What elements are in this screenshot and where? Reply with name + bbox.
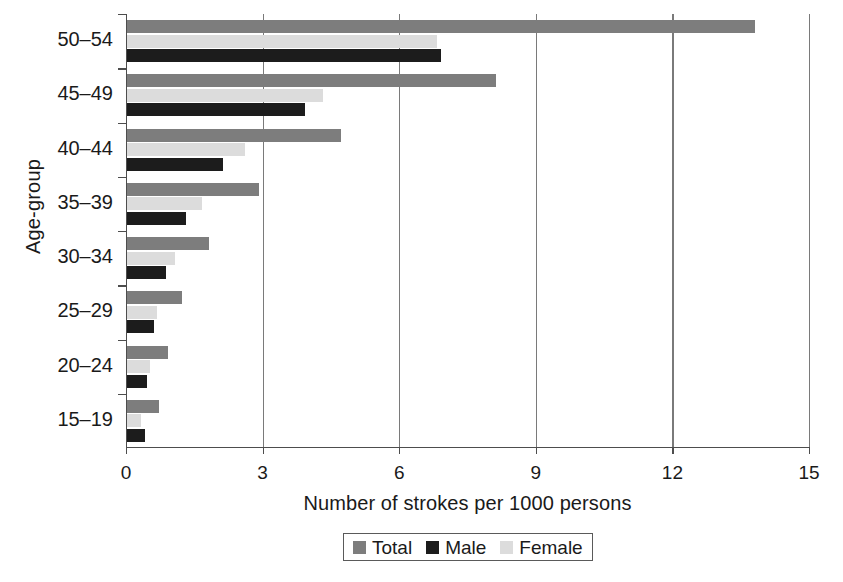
bar-group-25–29: 25–29 [127,285,809,339]
x-tick-label-6: 6 [369,462,429,484]
bar-male-20–24 [127,375,147,388]
y-tick-mark-25–29 [118,340,127,341]
x-tick-label-9: 9 [506,462,566,484]
x-tick-mark-15 [809,447,810,454]
plot-area: 03691215 15–1920–2425–2930–3435–3940–444… [126,14,809,448]
bar-total-45–49 [127,74,496,87]
bar-total-35–39 [127,183,259,196]
y-tick-label-35–39: 35–39 [3,191,113,214]
bar-female-20–24 [127,360,150,373]
bar-group-45–49: 45–49 [127,68,809,122]
bar-total-25–29 [127,291,182,304]
bar-female-30–34 [127,252,175,265]
y-tick-mark-20–24 [118,394,127,395]
chart-legend: TotalMaleFemale [343,533,593,561]
bar-female-50–54 [127,35,437,48]
x-tick-label-12: 12 [642,462,702,484]
x-axis-title: Number of strokes per 1000 persons [126,492,809,515]
y-tick-mark-top [118,14,127,15]
bar-total-40–44 [127,129,341,142]
x-tick-mark-12 [672,447,673,454]
bar-female-35–39 [127,197,202,210]
bar-male-40–44 [127,158,223,171]
bar-female-45–49 [127,89,323,102]
y-tick-mark-35–39 [118,231,127,232]
bar-male-15–19 [127,429,145,442]
legend-label-total: Total [372,538,412,557]
bar-total-15–19 [127,400,159,413]
bar-male-35–39 [127,212,186,225]
legend-label-male: Male [445,538,486,557]
y-tick-mark-30–34 [118,285,127,286]
x-tick-mark-9 [536,447,537,454]
y-tick-label-30–34: 30–34 [3,245,113,268]
legend-swatch-female-icon [500,541,513,554]
y-tick-mark-50–54 [118,68,127,69]
y-tick-label-45–49: 45–49 [3,82,113,105]
bar-male-30–34 [127,266,166,279]
y-tick-label-25–29: 25–29 [3,299,113,322]
legend-label-female: Female [519,538,582,557]
bar-group-35–39: 35–39 [127,177,809,231]
x-tick-mark-0 [126,447,127,454]
y-tick-label-50–54: 50–54 [3,28,113,51]
bar-group-15–19: 15–19 [127,394,809,448]
bar-group-20–24: 20–24 [127,340,809,394]
bar-male-25–29 [127,320,154,333]
bar-total-30–34 [127,237,209,250]
x-tick-mark-3 [263,447,264,454]
x-tick-label-3: 3 [233,462,293,484]
legend-item-total[interactable]: Total [353,538,412,557]
y-tick-mark-45–49 [118,123,127,124]
y-tick-label-15–19: 15–19 [3,408,113,431]
y-tick-label-20–24: 20–24 [3,354,113,377]
legend-swatch-total-icon [353,541,366,554]
gridline-15 [809,14,810,448]
legend-item-female[interactable]: Female [500,538,582,557]
stroke-incidence-bar-chart: Age-group 03691215 15–1920–2425–2930–343… [0,0,843,582]
legend-swatch-male-icon [426,541,439,554]
bar-male-45–49 [127,103,305,116]
y-tick-mark-40–44 [118,177,127,178]
bar-female-40–44 [127,143,245,156]
bar-female-25–29 [127,306,157,319]
x-tick-label-15: 15 [779,462,839,484]
bar-group-30–34: 30–34 [127,231,809,285]
bar-group-50–54: 50–54 [127,14,809,68]
bar-total-50–54 [127,20,755,33]
legend-item-male[interactable]: Male [426,538,486,557]
x-tick-mark-6 [399,447,400,454]
x-tick-label-0: 0 [96,462,156,484]
bar-group-40–44: 40–44 [127,123,809,177]
bar-female-15–19 [127,414,141,427]
bar-male-50–54 [127,49,441,62]
bar-total-20–24 [127,346,168,359]
y-tick-label-40–44: 40–44 [3,137,113,160]
